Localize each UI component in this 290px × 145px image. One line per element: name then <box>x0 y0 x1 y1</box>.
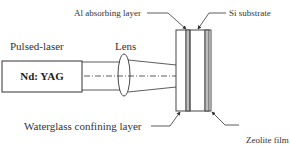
al-absorbing-layer <box>186 30 190 111</box>
laser-shock-setup-diagram: Pulsed-laser Nd: YAG Lens Al absorbing l… <box>0 0 290 145</box>
laser-source-label: Nd: YAG <box>20 70 64 82</box>
laser-source-box: Nd: YAG <box>2 61 82 92</box>
laser-beam <box>82 60 186 92</box>
al-layer-arrow <box>147 13 186 29</box>
zeolite-arrow <box>212 112 239 125</box>
sample-stack <box>176 30 211 111</box>
zeolite-film-layer <box>205 30 209 111</box>
lens-label: Lens <box>115 40 136 52</box>
si-substrate-label: Si substrate <box>229 8 271 18</box>
waterglass-arrow <box>151 112 180 126</box>
al-layer-label: Al absorbing layer <box>74 8 141 18</box>
lens <box>118 54 130 96</box>
waterglass-label: Waterglass confining layer <box>24 120 142 132</box>
si-substrate-arrow <box>198 13 226 29</box>
pulsed-laser-label: Pulsed-laser <box>10 40 64 52</box>
zeolite-label: Zeolite film <box>246 135 289 145</box>
